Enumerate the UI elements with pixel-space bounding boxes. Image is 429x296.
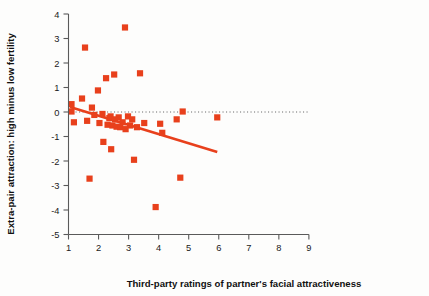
y-tick-label: -4 [51,206,59,216]
x-tick-label: 3 [126,243,131,253]
y-tick-label: 0 [54,108,59,118]
data-point-marker [157,121,163,127]
data-point-marker [174,116,180,122]
data-point-marker [79,95,85,101]
y-tick-label: 4 [54,10,59,20]
data-point-marker [159,130,165,136]
x-tick-label: 7 [246,243,251,253]
data-point-marker [214,114,220,120]
data-point-marker [122,24,128,30]
x-tick-label: 9 [306,243,311,253]
y-tick-label: -2 [51,157,59,167]
y-tick-label: -3 [51,181,59,191]
x-tick-label: 5 [186,243,191,253]
data-point-marker [99,111,105,117]
scatter-plot-figure: 123456789 -5-4-3-2-101234 Third-party ra… [0,0,429,296]
data-point-marker [82,44,88,50]
data-point-marker [119,119,125,125]
y-tick-label: 1 [54,83,59,93]
data-point-marker [71,119,77,125]
data-point-marker [96,120,102,126]
data-point-marker [134,124,140,130]
data-point-marker [68,101,74,107]
data-point-marker [89,104,95,110]
data-point-marker [84,118,90,124]
plot-background [0,0,429,296]
x-tick-label: 6 [216,243,221,253]
chart-canvas: 123456789 -5-4-3-2-101234 Third-party ra… [0,0,429,296]
data-point-marker [86,176,92,182]
data-point-marker [129,116,135,122]
x-tick-label: 4 [156,243,161,253]
x-tick-label: 8 [276,243,281,253]
data-point-marker [91,112,97,118]
x-tick-label: 1 [66,243,71,253]
data-point-marker [141,120,147,126]
x-axis-label: Third-party ratings of partner's facial … [127,278,362,289]
y-tick-label: 2 [54,59,59,69]
data-point-marker [103,75,109,81]
data-point-marker [108,146,114,152]
data-point-marker [137,70,143,76]
x-tick-label: 2 [96,243,101,253]
data-point-marker [100,139,106,145]
data-point-marker [131,157,137,163]
data-point-marker [180,108,186,114]
data-point-marker [95,87,101,93]
y-tick-label: 3 [54,34,59,44]
data-point-marker [68,108,74,114]
data-point-marker [153,204,159,210]
data-point-marker [177,175,183,181]
data-point-marker [111,71,117,77]
y-axis-label: Extra-pair attraction: high minus low fe… [5,33,16,235]
y-tick-label: -5 [51,230,59,240]
y-tick-label: -1 [51,132,59,142]
data-point-marker [127,122,133,128]
